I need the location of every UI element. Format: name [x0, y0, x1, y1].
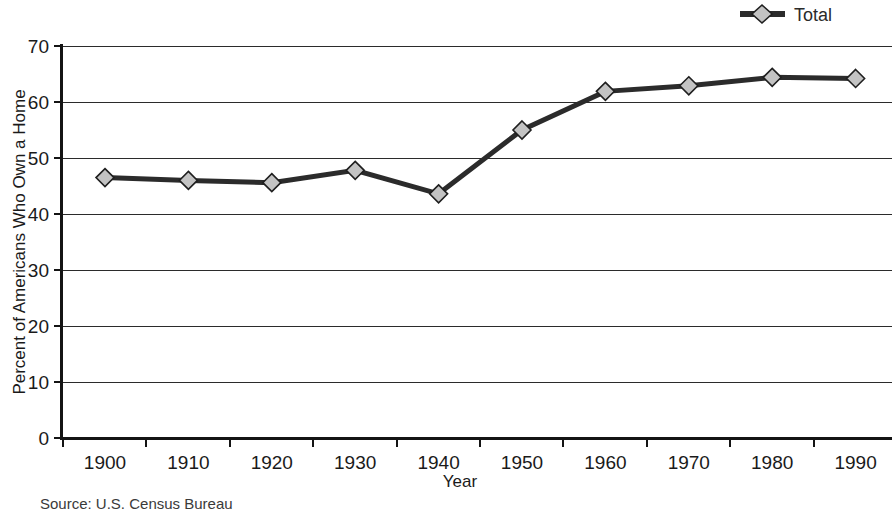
y-tick-label-40: 40 [28, 204, 49, 225]
y-axis-title: Percent of Americans Who Own a Home [10, 89, 29, 394]
x-tick-label-1960: 1960 [584, 452, 626, 473]
legend-label-total: Total [794, 5, 832, 25]
source-note: Source: U.S. Census Bureau [40, 495, 233, 512]
y-tick-label-10: 10 [28, 372, 49, 393]
y-tick-label-50: 50 [28, 148, 49, 169]
x-tick-label-1990: 1990 [834, 452, 876, 473]
y-tick-label-70: 70 [28, 36, 49, 57]
x-tick-label-1970: 1970 [668, 452, 710, 473]
x-tick-label-1940: 1940 [417, 452, 459, 473]
x-tick-label-1900: 1900 [84, 452, 126, 473]
x-tick-label-1920: 1920 [251, 452, 293, 473]
line-chart: 010203040506070 190019101920193019401950… [0, 0, 892, 512]
x-tick-label-1930: 1930 [334, 452, 376, 473]
y-tick-label-20: 20 [28, 316, 49, 337]
x-tick-label-1950: 1950 [501, 452, 543, 473]
x-tick-label-1980: 1980 [751, 452, 793, 473]
chart-container: 010203040506070 190019101920193019401950… [0, 0, 892, 512]
y-tick-label-60: 60 [28, 92, 49, 113]
y-tick-label-30: 30 [28, 260, 49, 281]
x-axis-title: Year [443, 472, 478, 491]
y-tick-label-0: 0 [38, 428, 49, 449]
x-tick-label-1910: 1910 [167, 452, 209, 473]
